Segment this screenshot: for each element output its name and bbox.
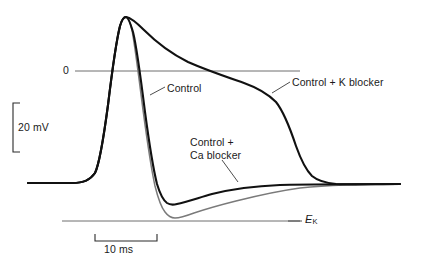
ca-blocker-trace-label: Control + Ca blocker [190,136,241,161]
trace-control [28,17,400,218]
time-scale-bar [95,234,157,241]
time-scale-label: 10 ms [104,243,133,256]
control-leader-line [150,87,165,95]
ca-blocker-leader-line [222,160,238,182]
ca-blocker-label-line2: Ca blocker [190,149,241,162]
control-trace-label: Control [167,82,202,95]
ek-label-subscript: K [312,217,317,226]
ca-blocker-label-line1: Control + [190,136,241,149]
k-blocker-leader-line [272,82,290,93]
zero-axis-label: 0 [63,64,69,77]
ek-axis-label: EK [305,213,317,228]
voltage-scale-label: 20 mV [18,121,49,134]
figure-container: 0 20 mV 10 ms Control Control + K blocke… [0,0,422,261]
action-potential-plot [0,0,422,261]
trace-ca-blocker [28,17,400,205]
k-blocker-trace-label: Control + K blocker [292,76,383,89]
